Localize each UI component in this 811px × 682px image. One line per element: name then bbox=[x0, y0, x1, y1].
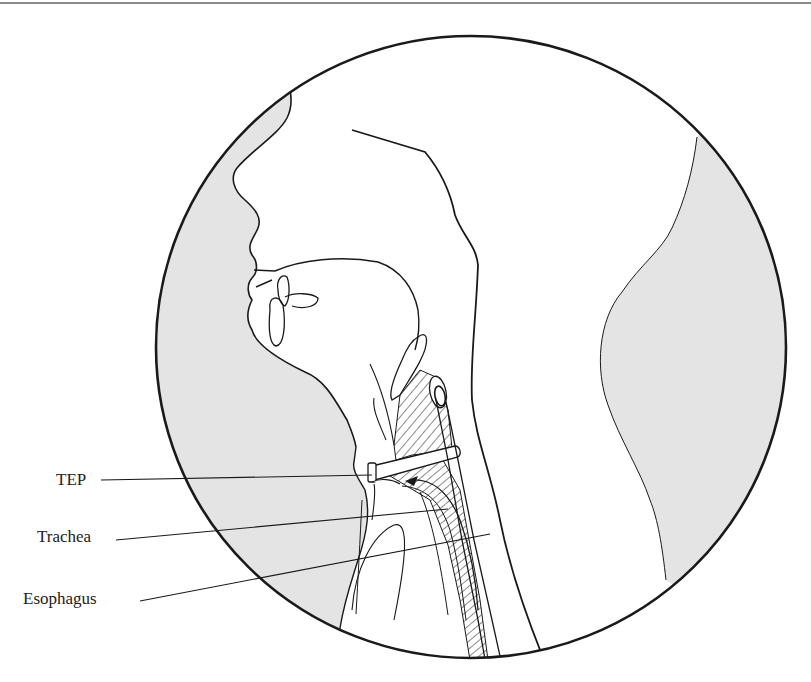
stoma-lower bbox=[372, 480, 400, 484]
lower-tooth bbox=[269, 298, 284, 346]
tep-prosthesis-flange bbox=[368, 463, 376, 482]
label-esophagus: Esophagus bbox=[23, 590, 97, 607]
upper-tooth bbox=[278, 276, 289, 306]
tep-anatomy-diagram bbox=[0, 0, 811, 682]
neck-posterior-line bbox=[352, 130, 542, 655]
shaded-front-edge bbox=[288, 55, 291, 88]
lip-line-upper bbox=[254, 270, 275, 271]
shaded-region-back bbox=[600, 0, 811, 682]
tongue-base bbox=[374, 398, 386, 440]
lip-line-lower bbox=[256, 280, 272, 287]
label-trachea: Trachea bbox=[37, 528, 91, 545]
tongue-tip bbox=[285, 294, 318, 308]
label-tep: TEP bbox=[56, 471, 86, 488]
esophagus-wall-1 bbox=[372, 484, 375, 520]
oral-cavity bbox=[275, 259, 419, 350]
